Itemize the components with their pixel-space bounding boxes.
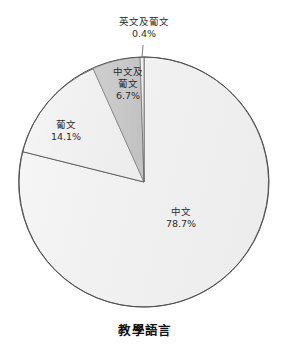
pie-chart-svg (0, 0, 290, 345)
pie-chart: 英文及葡文 0.4% 中文及 葡文 6.7% 葡文 14.1% 中文 78.7%… (0, 0, 290, 345)
slice-label-chinese-portuguese-category-line1: 中文及 (95, 66, 161, 78)
slice-label-chinese: 中文 78.7% (148, 206, 214, 230)
slice-label-chinese-portuguese-category-line2: 葡文 (95, 78, 161, 90)
chart-title: 教學語言 (0, 320, 290, 339)
slice-label-portuguese-percent: 14.1% (33, 131, 99, 143)
slice-label-chinese-portuguese: 中文及 葡文 6.7% (95, 66, 161, 102)
slice-label-portuguese-category: 葡文 (33, 119, 99, 131)
slice-label-english-portuguese-percent: 0.4% (94, 28, 194, 40)
slice-label-chinese-category: 中文 (148, 206, 214, 218)
slice-label-english-portuguese: 英文及葡文 0.4% (94, 16, 194, 40)
leader-line-english-portuguese (142, 45, 143, 58)
slice-label-english-portuguese-category: 英文及葡文 (94, 16, 194, 28)
slice-label-chinese-portuguese-percent: 6.7% (95, 90, 161, 102)
slice-label-chinese-percent: 78.7% (148, 218, 214, 230)
slice-label-portuguese: 葡文 14.1% (33, 119, 99, 143)
